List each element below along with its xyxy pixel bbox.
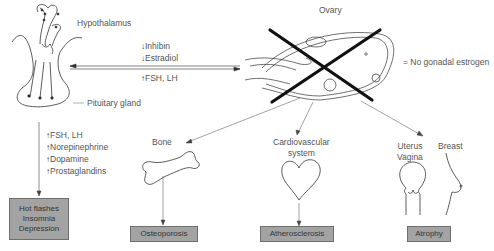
feedback-arrows xyxy=(70,64,240,71)
symptoms-box: Hot flashes Insomnia Depression xyxy=(9,198,69,240)
diagram-artwork xyxy=(0,0,494,251)
cross-out-icon xyxy=(270,30,380,102)
pituitary-output-fsh-lh: FSH, LH xyxy=(46,131,83,140)
bone-arrow xyxy=(161,176,165,225)
heart-arrow xyxy=(297,203,301,226)
hypothalamus-pituitary-illustration xyxy=(12,5,84,107)
ovary-label: Ovary xyxy=(319,6,342,15)
hypothalamus-label: Hypothalamus xyxy=(77,19,131,28)
uterus-vagina-label: Uterus Vagina xyxy=(397,142,423,161)
atrophy-box: Atrophy xyxy=(407,226,451,242)
pituitary-output-prostaglandins: Prostaglandins xyxy=(46,167,106,176)
breast-label: Breast xyxy=(438,142,463,151)
inhibin-decrease-label: Inhibin xyxy=(141,42,170,51)
atherosclerosis-box: Atherosclerosis xyxy=(260,226,334,242)
estradiol-decrease-label: Estradiol xyxy=(141,54,178,63)
fsh-lh-increase-label: FSH, LH xyxy=(141,74,178,83)
bone-label: Bone xyxy=(152,138,172,147)
heart-icon xyxy=(282,160,320,200)
pituitary-label: Pituitary gland xyxy=(87,99,141,108)
cardiovascular-label: Cardiovascular system xyxy=(273,138,330,157)
no-estrogen-label: = No gonadal estrogen xyxy=(403,58,489,67)
uterus-icon xyxy=(400,162,426,215)
pituitary-output-norepinephrine: Norepinephrine xyxy=(46,143,108,152)
breast-icon xyxy=(446,153,462,215)
pituitary-down-arrow xyxy=(37,122,41,196)
bone-icon xyxy=(143,152,200,185)
osteoporosis-box: Osteoporosis xyxy=(130,226,198,242)
ovary-illustration xyxy=(245,32,394,100)
pituitary-output-dopamine: Dopamine xyxy=(46,155,89,164)
